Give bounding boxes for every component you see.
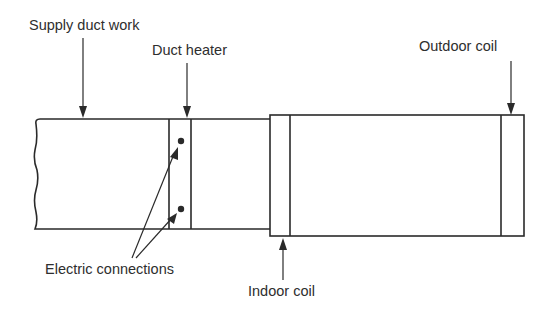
label-electric-connections: Electric connections xyxy=(45,261,174,277)
supply-duct xyxy=(34,119,270,229)
label-indoor-coil: Indoor coil xyxy=(248,283,315,299)
arrow-duct-heater xyxy=(183,63,191,118)
duct-heater xyxy=(169,119,191,229)
arrow-supply-duct xyxy=(79,38,87,118)
arrow-indoor-coil xyxy=(279,238,287,280)
label-duct-heater: Duct heater xyxy=(152,42,227,58)
label-outdoor-coil: Outdoor coil xyxy=(419,38,497,54)
electric-connection-dot-top xyxy=(178,138,184,144)
unit-box xyxy=(270,115,524,236)
label-supply-duct-work: Supply duct work xyxy=(29,17,139,33)
arrows-electric-connections xyxy=(132,147,178,258)
arrow-outdoor-coil xyxy=(507,61,515,115)
electric-connection-dot-bottom xyxy=(178,206,184,212)
